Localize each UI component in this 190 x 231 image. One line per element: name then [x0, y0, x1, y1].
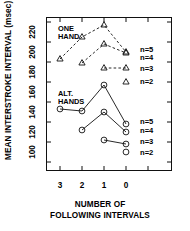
legend-alt-hands-n3: n=3 [140, 137, 153, 146]
legend-alt-hands-n2: n=2 [140, 148, 153, 157]
legend-one-hand-n3: n=3 [140, 64, 153, 73]
marker-triangle [123, 65, 129, 70]
y-tick-140: 140 [28, 105, 37, 119]
x-tick-1: 1 [102, 181, 107, 190]
y-tick-180: 180 [28, 65, 37, 79]
marker-triangle [123, 79, 129, 84]
x-axis-title-line1: NUMBER OF [75, 200, 125, 209]
x-axis-title-line2: FOLLOWING INTERVALS [50, 211, 150, 220]
y-tick-160: 160 [28, 85, 37, 99]
legend-one-hand-n2: n=2 [140, 77, 153, 86]
annotation-one-hand-line2: HAND [58, 32, 80, 41]
alt-hands-n3-line [104, 140, 126, 144]
y-tick-200: 200 [28, 45, 37, 59]
marker-triangle [79, 60, 85, 65]
marker-triangle [101, 41, 107, 46]
legend-alt-hands: n=5 n=4 n=3 n=2 [140, 117, 154, 157]
annotation-alt-hands-line2: HANDS [58, 97, 84, 106]
interstroke-interval-line-chart: MEAN INTERSTROKE INTERVAL (msec) 220 200… [0, 0, 190, 231]
x-tick-2: 2 [80, 181, 85, 190]
marker-triangle [57, 56, 63, 61]
marker-triangle [79, 34, 85, 39]
legend-alt-hands-n4: n=4 [140, 126, 154, 135]
annotation-one-hand: ONE HAND [58, 24, 80, 41]
legend-one-hand: n=5 n=4 n=3 n=2 [140, 45, 154, 86]
x-tick-3: 3 [58, 181, 63, 190]
legend-alt-hands-n5: n=5 [140, 117, 154, 126]
marker-triangle [101, 65, 107, 70]
legend-one-hand-n4: n=4 [140, 53, 154, 62]
annotation-alt-hands: ALT. HANDS [58, 89, 84, 106]
chart-figure: MEAN INTERSTROKE INTERVAL (msec) 220 200… [0, 0, 190, 231]
one-hand-n4-line [82, 44, 126, 63]
marker-triangle [101, 22, 107, 27]
y-axis-title: MEAN INTERSTROKE INTERVAL (msec) [4, 1, 13, 160]
y-tick-labels: 220 200 180 160 140 120 100 [28, 25, 37, 159]
y-tick-120: 120 [28, 125, 37, 139]
y-tick-100: 100 [28, 145, 37, 159]
x-tick-labels: 3 2 1 0 [58, 181, 129, 190]
x-axis-title: NUMBER OF FOLLOWING INTERVALS [50, 200, 150, 220]
x-tick-0: 0 [124, 181, 129, 190]
y-tick-220: 220 [28, 25, 37, 39]
marker-circle [123, 149, 129, 155]
